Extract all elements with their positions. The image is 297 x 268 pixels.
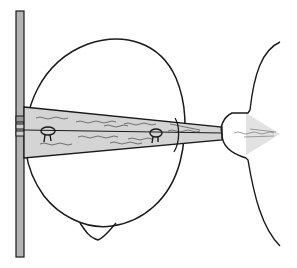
head-beam-diagram [0, 0, 297, 268]
diagram-canvas [0, 0, 297, 268]
